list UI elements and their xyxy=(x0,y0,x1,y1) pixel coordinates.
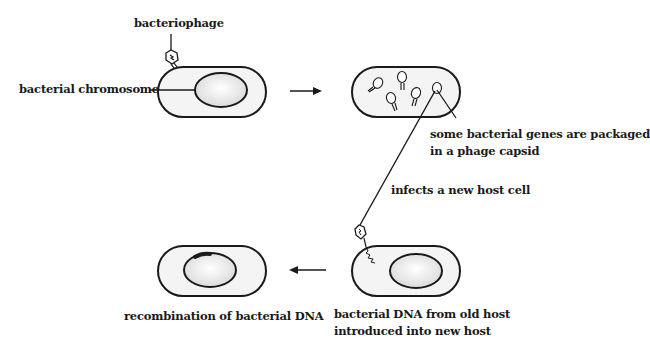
packaged-label-line2: in a phage capsid xyxy=(430,143,539,160)
bacteriophage-label: bacteriophage xyxy=(134,15,224,32)
bacterial-chromosome-label: bacterial chromosome xyxy=(19,81,159,98)
bacteriophage-icon xyxy=(166,34,178,68)
bacterium-4 xyxy=(158,246,266,296)
recombination-label: recombination of bacterial DNA xyxy=(124,308,324,325)
arrow-right-icon xyxy=(290,87,322,95)
infects-label: infects a new host cell xyxy=(391,182,530,199)
bacterium-1 xyxy=(149,67,266,117)
introduced-label-line1: bacterial DNA from old host xyxy=(334,306,510,323)
packaged-label-line1: some bacterial genes are packaged xyxy=(430,126,650,143)
bacterium-3 xyxy=(352,225,460,296)
arrow-left-icon xyxy=(289,266,326,274)
chromosome-1 xyxy=(195,73,247,107)
bacterium-2 xyxy=(352,67,460,118)
introduced-label-line2: introduced into new host xyxy=(334,323,491,340)
